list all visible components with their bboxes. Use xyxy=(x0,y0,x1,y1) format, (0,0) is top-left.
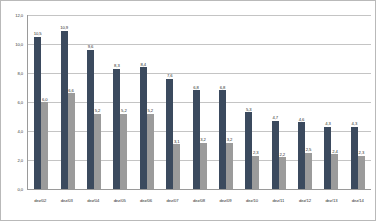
bar-value-label: 2,3 xyxy=(253,150,259,155)
y-axis-tick-label: 6,0 xyxy=(1,100,23,105)
bar-series-1: 8,3 xyxy=(113,69,120,189)
y-axis-tick-label: 8,0 xyxy=(1,71,23,76)
x-axis-tick-label: dez/10 xyxy=(239,191,265,204)
bar-value-label: 8,4 xyxy=(140,62,146,67)
bar-value-label: 9,6 xyxy=(88,44,94,49)
bar-series-1: 4,7 xyxy=(272,121,279,189)
bar-value-label: 2,2 xyxy=(279,152,285,157)
bar-value-label: 10,9 xyxy=(60,25,68,30)
bar-value-label: 7,6 xyxy=(167,73,173,78)
bar-series-1: 8,4 xyxy=(140,67,147,189)
bar-series-1: 10,5 xyxy=(34,37,41,189)
bar-value-label: 6,8 xyxy=(220,85,226,90)
bar-chart: 10,56,010,96,69,65,28,35,28,45,27,63,16,… xyxy=(0,0,376,221)
bar-series-2: 3,2 xyxy=(226,143,233,189)
x-axis-tick-label: dez/08 xyxy=(186,191,212,204)
bar-group: 6,83,2 xyxy=(186,15,212,189)
bar-series-2: 3,1 xyxy=(173,144,180,189)
bar-value-label: 4,7 xyxy=(272,115,278,120)
x-axis-tick-label: dez/03 xyxy=(53,191,79,204)
bar-series-2: 2,4 xyxy=(331,154,338,189)
bar-series-2: 3,2 xyxy=(200,143,207,189)
bar-series-2: 2,3 xyxy=(358,156,365,189)
bar-series-1: 5,3 xyxy=(245,112,252,189)
x-axis-tick-label: dez/05 xyxy=(106,191,132,204)
bar-series-2: 2,5 xyxy=(305,153,312,189)
bar-value-label: 6,0 xyxy=(42,97,48,102)
x-axis-tick-label: dez/06 xyxy=(133,191,159,204)
bar-group: 10,56,0 xyxy=(28,15,54,189)
x-axis-tick-label: dez/13 xyxy=(318,191,344,204)
bar-value-label: 6,8 xyxy=(193,85,199,90)
x-axis-tick-label: dez/04 xyxy=(80,191,106,204)
bar-series-1: 6,8 xyxy=(219,90,226,189)
x-axis-tick-label: dez/09 xyxy=(212,191,238,204)
bar-value-label: 5,2 xyxy=(121,108,127,113)
bar-series-1: 9,6 xyxy=(87,50,94,189)
bar-value-label: 5,3 xyxy=(246,107,252,112)
bar-value-label: 3,2 xyxy=(227,137,233,142)
bar-series-2: 2,2 xyxy=(279,157,286,189)
bars-layer: 10,56,010,96,69,65,28,35,28,45,27,63,16,… xyxy=(28,15,371,189)
bar-series-2: 5,2 xyxy=(120,114,127,189)
bar-series-2: 5,2 xyxy=(147,114,154,189)
bar-group: 4,32,4 xyxy=(318,15,344,189)
bar-series-1: 4,6 xyxy=(298,122,305,189)
bar-series-1: 7,6 xyxy=(166,79,173,189)
bar-series-1: 4,3 xyxy=(324,127,331,189)
y-axis-tick-label: 10,0 xyxy=(1,42,23,47)
bar-value-label: 2,5 xyxy=(306,147,312,152)
bar-group: 7,63,1 xyxy=(160,15,186,189)
y-axis-tick-label: 2,0 xyxy=(1,158,23,163)
bar-group: 9,65,2 xyxy=(81,15,107,189)
bar-value-label: 3,1 xyxy=(174,139,180,144)
bar-value-label: 4,3 xyxy=(352,121,358,126)
y-axis-tick-label: 4,0 xyxy=(1,129,23,134)
bar-series-1: 10,9 xyxy=(61,31,68,189)
bar-group: 10,96,6 xyxy=(54,15,80,189)
bar-group: 4,62,5 xyxy=(292,15,318,189)
plot-area: 10,56,010,96,69,65,28,35,28,45,27,63,16,… xyxy=(27,15,371,190)
x-axis-labels: dez/02dez/03dez/04dez/05dez/06dez/07dez/… xyxy=(27,191,371,217)
x-axis-tick-label: dez/02 xyxy=(27,191,53,204)
bar-group: 4,72,2 xyxy=(266,15,292,189)
bar-series-2: 5,2 xyxy=(94,114,101,189)
y-axis-tick-label: 0,0 xyxy=(1,187,23,192)
x-axis-tick-label: dez/11 xyxy=(265,191,291,204)
bar-value-label: 4,6 xyxy=(299,117,305,122)
bar-group: 8,35,2 xyxy=(107,15,133,189)
bar-group: 8,45,2 xyxy=(134,15,160,189)
x-axis-tick-label: dez/07 xyxy=(159,191,185,204)
x-axis-tick-label: dez/12 xyxy=(292,191,318,204)
bar-series-2: 2,3 xyxy=(252,156,259,189)
bar-group: 4,32,3 xyxy=(345,15,371,189)
bar-group: 6,83,2 xyxy=(213,15,239,189)
bar-value-label: 4,3 xyxy=(325,121,331,126)
bar-value-label: 8,3 xyxy=(114,63,120,68)
y-axis-tick-label: 12,0 xyxy=(1,13,23,18)
bar-value-label: 3,2 xyxy=(200,137,206,142)
bar-group: 5,32,3 xyxy=(239,15,265,189)
bar-series-1: 4,3 xyxy=(351,127,358,189)
bar-value-label: 6,6 xyxy=(68,88,74,93)
bar-value-label: 5,2 xyxy=(95,108,101,113)
bar-value-label: 10,5 xyxy=(34,31,42,36)
bar-value-label: 2,4 xyxy=(332,149,338,154)
bar-value-label: 2,3 xyxy=(359,150,365,155)
bar-series-2: 6,0 xyxy=(41,102,48,189)
bar-series-1: 6,8 xyxy=(193,90,200,189)
bar-series-2: 6,6 xyxy=(68,93,75,189)
x-axis-tick-label: dez/14 xyxy=(345,191,371,204)
bar-value-label: 5,2 xyxy=(147,108,153,113)
